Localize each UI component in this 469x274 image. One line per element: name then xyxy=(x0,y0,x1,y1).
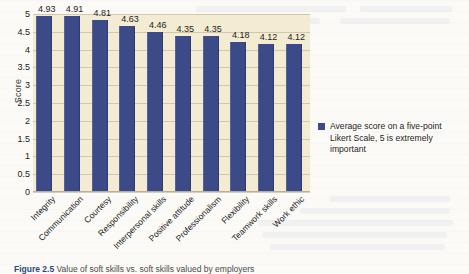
bar-slot: 4.93 xyxy=(33,14,61,191)
bar-slot: 4.81 xyxy=(88,14,116,191)
y-tick-label: 5 xyxy=(2,9,30,19)
y-tick-label: 4 xyxy=(2,45,30,55)
x-axis-category-labels: IntegrityCommunicationCourtesyResponsibi… xyxy=(33,194,310,256)
figure-caption-text: Value of soft skills vs. soft skills val… xyxy=(57,264,255,274)
gridline xyxy=(33,192,310,193)
y-tick-label: 1 xyxy=(2,151,30,161)
bar[interactable] xyxy=(147,32,163,191)
y-tick-label: 2 xyxy=(2,116,30,126)
chart-legend: Average score on a five-point Likert Sca… xyxy=(318,121,466,156)
legend-label: Average score on a five-point Likert Sca… xyxy=(330,121,458,156)
bar[interactable] xyxy=(175,36,191,191)
bar-slot: 4.18 xyxy=(227,14,255,191)
bar[interactable] xyxy=(258,44,274,191)
bar-slot: 4.46 xyxy=(144,14,172,191)
bar-value-label: 4.91 xyxy=(66,4,84,14)
bar-slot: 4.91 xyxy=(61,14,89,191)
bar-slot: 4.63 xyxy=(116,14,144,191)
bar-slot: 4.12 xyxy=(282,14,310,191)
bar[interactable] xyxy=(64,16,80,191)
figure-number: Figure 2.5 xyxy=(14,264,54,274)
bar-value-label: 4.35 xyxy=(204,24,222,34)
bar[interactable] xyxy=(119,26,135,191)
y-tick-label: 0.5 xyxy=(2,169,30,179)
bar-value-label: 4.18 xyxy=(232,30,250,40)
legend-color-swatch xyxy=(318,123,325,130)
bar-value-label: 4.12 xyxy=(287,32,305,42)
bar[interactable] xyxy=(203,36,219,191)
bar[interactable] xyxy=(92,20,108,191)
bar-value-label: 4.12 xyxy=(260,32,278,42)
y-tick-label: 3 xyxy=(2,80,30,90)
figure-caption: Figure 2.5 Value of soft skills vs. soft… xyxy=(14,264,454,274)
bar-value-label: 4.46 xyxy=(149,20,167,30)
bar-value-label: 4.93 xyxy=(38,4,56,14)
bar[interactable] xyxy=(286,44,302,191)
bar-slot: 4.35 xyxy=(172,14,200,191)
y-tick-label: 2.5 xyxy=(2,98,30,108)
y-tick-label: 3.5 xyxy=(2,62,30,72)
bar[interactable] xyxy=(230,42,246,191)
y-tick-label: 1.5 xyxy=(2,134,30,144)
bar-value-label: 4.81 xyxy=(93,8,111,18)
y-tick-label: 0 xyxy=(2,187,30,197)
y-tick-label: 4.5 xyxy=(2,27,30,37)
bar-value-label: 4.35 xyxy=(177,24,195,34)
bar-series: 4.934.914.814.634.464.354.354.184.124.12 xyxy=(33,14,310,191)
y-axis-tick-labels: 00.511.522.533.544.55 xyxy=(0,14,30,194)
bar-slot: 4.12 xyxy=(255,14,283,191)
bar-slot: 4.35 xyxy=(199,14,227,191)
bar[interactable] xyxy=(36,16,52,192)
bar-chart-figure: Score 00.511.522.533.544.55 4.934.914.81… xyxy=(0,0,469,274)
bar-value-label: 4.63 xyxy=(121,14,139,24)
plot-area: 4.934.914.814.634.464.354.354.184.124.12 xyxy=(33,14,310,192)
